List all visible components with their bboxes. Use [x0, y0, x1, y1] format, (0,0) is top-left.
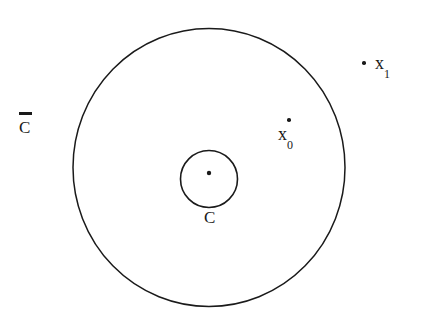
point-x1-base: x [375, 53, 384, 73]
inner-circle-label: C [204, 209, 215, 226]
outer-circle-label: C [19, 112, 30, 136]
point-x1-dot [362, 61, 366, 65]
diagram-svg [0, 0, 430, 328]
point-x1-label: x1 [375, 54, 390, 76]
overbar-mark [19, 112, 32, 115]
point-x0-dot [287, 118, 291, 122]
point-x0-subscript: 0 [287, 138, 293, 152]
point-x0-label: x0 [278, 125, 293, 147]
point-x1-subscript: 1 [384, 67, 390, 81]
outer-circle-shape [73, 29, 345, 307]
inner-circle-shape [181, 151, 238, 208]
center-dot [207, 171, 211, 175]
point-x0-base: x [278, 124, 287, 144]
outer-circle-label-text: C [19, 113, 30, 136]
figure-canvas: C C x0 x1 [0, 0, 430, 328]
